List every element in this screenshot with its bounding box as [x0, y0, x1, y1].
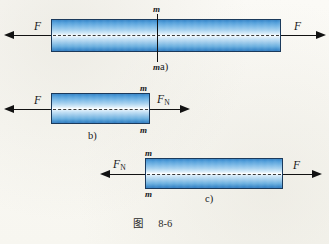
panel-c-internal-force-label: FN: [113, 159, 126, 171]
panel-a-left-force-label: F: [34, 21, 41, 33]
panel-c-right-force-label: F: [293, 160, 300, 172]
panel-a-right-force-arrowhead: [316, 31, 326, 39]
figure-caption: 图 8-6: [133, 215, 172, 230]
panel-b-left-force-shaft: [14, 109, 54, 110]
panel-c-part-label: c): [205, 194, 213, 205]
panel-a-centerline: [53, 35, 279, 36]
figure-canvas: F m m F a) F m m FN b): [0, 0, 329, 244]
panel-b-internal-force-label: FN: [157, 94, 170, 106]
panel-c-section-bottom-label: m: [145, 190, 152, 199]
panel-a-section-top-label: m: [153, 5, 160, 14]
panel-b-internal-force-shaft: [150, 109, 183, 110]
panel-c-internal-force-base: F: [113, 158, 120, 170]
panel-b-left-force-arrowhead: [4, 105, 14, 113]
figure-caption-label: 图: [133, 217, 144, 229]
panel-c-internal-force-shaft: [110, 174, 146, 175]
panel-c-centerline: [147, 174, 281, 175]
panel-a-right-force-shaft: [281, 35, 319, 36]
panel-b-internal-force-arrowhead: [180, 105, 190, 113]
figure-caption-number: 8-6: [158, 218, 172, 229]
panel-b-section-top-label: m: [140, 84, 147, 93]
panel-c-internal-force-arrowhead: [100, 170, 110, 178]
panel-b-centerline: [53, 109, 148, 110]
panel-c-internal-force-subscript: N: [120, 163, 125, 172]
panel-a-right-force-label: F: [294, 21, 301, 33]
panel-c-right-force-arrowhead: [312, 170, 322, 178]
panel-c-section-top-label: m: [145, 149, 152, 158]
panel-b-part-label: b): [88, 131, 97, 142]
panel-b-internal-force-subscript: N: [164, 98, 169, 107]
panel-c-right-force-shaft: [283, 174, 315, 175]
panel-a-section-cut-line: [157, 14, 158, 62]
panel-b-internal-force-base: F: [157, 93, 164, 105]
panel-b-section-bottom-label: m: [140, 126, 147, 135]
panel-a-left-force-arrowhead: [4, 31, 14, 39]
panel-b-left-force-label: F: [34, 95, 41, 107]
panel-a-section-bottom-label: m: [153, 63, 160, 72]
panel-a-part-label: a): [160, 62, 168, 73]
panel-a-left-force-shaft: [14, 35, 54, 36]
